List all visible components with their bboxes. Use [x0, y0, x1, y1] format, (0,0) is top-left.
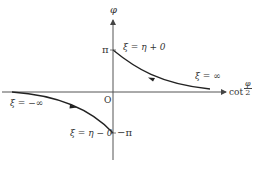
x-axis-label-fraction: φ 2 [244, 80, 252, 97]
x-axis-label-cot: cot [229, 88, 243, 97]
upper-branch-curve [113, 50, 210, 89]
phi-axis-label: φ [110, 5, 117, 15]
diagram-canvas [0, 0, 256, 169]
origin-label: O [104, 96, 111, 105]
xi-eta-minus-label: ξ = η − 0 [70, 129, 113, 138]
minus-pi-tick-label: −π [117, 128, 132, 138]
xi-minus-infinity-label: ξ = −∞ [10, 99, 43, 108]
pi-tick-label: π [102, 45, 109, 55]
upper-branch-arrow-icon [148, 78, 155, 82]
xi-eta-plus-label: ξ = η + 0 [123, 43, 166, 52]
xi-infinity-label: ξ = ∞ [195, 72, 221, 81]
fraction-denominator: 2 [244, 89, 252, 97]
